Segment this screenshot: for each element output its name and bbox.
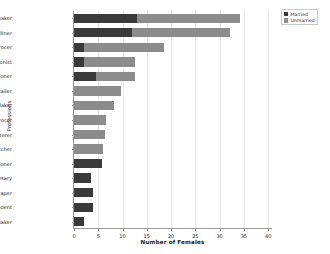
bar-segment-unmarried <box>74 101 114 110</box>
y-tick-mark <box>72 91 74 92</box>
bar-row <box>74 144 103 153</box>
x-tick-mark <box>147 229 148 231</box>
bar-segment-married <box>74 14 137 23</box>
bar-segment-married <box>74 159 102 168</box>
gridline <box>195 11 196 228</box>
legend-label-married: Married <box>290 12 308 17</box>
bar-row <box>74 188 93 197</box>
x-tick-mark <box>268 229 269 231</box>
y-tick-label: Lady Superintendent <box>0 204 12 210</box>
x-tick-mark <box>195 229 196 231</box>
x-tick-mark <box>244 229 245 231</box>
bar-row <box>74 101 114 110</box>
gridline <box>220 11 221 228</box>
y-tick-mark <box>72 33 74 34</box>
bar-row <box>74 217 84 226</box>
y-tick-mark <box>72 222 74 223</box>
y-tick-label: Beer Retailer <box>0 88 12 94</box>
y-tick-label: Greengrocer <box>0 117 12 123</box>
bar-row <box>74 72 135 81</box>
y-tick-mark <box>72 178 74 179</box>
y-tick-label: Milliner <box>0 30 12 36</box>
legend-item-married: Married <box>284 12 315 17</box>
y-tick-mark <box>72 149 74 150</box>
bar-segment-married <box>74 217 84 226</box>
bar-row <box>74 57 135 66</box>
x-axis-title: Number of Females <box>73 239 272 245</box>
bar-segment-married <box>74 203 93 212</box>
bar-row <box>74 28 230 37</box>
legend-item-unmarried: Unmarried <box>284 18 315 23</box>
bar-segment-married <box>74 57 84 66</box>
y-tick-mark <box>72 18 74 19</box>
legend-label-unmarried: Unmarried <box>290 18 314 23</box>
y-tick-mark <box>72 76 74 77</box>
chart-figure: Professions 0510152025303540DressmakerMi… <box>0 0 330 254</box>
y-tick-mark <box>72 164 74 165</box>
y-tick-label: Confectioner <box>0 73 12 79</box>
y-tick-label: Tobacconist <box>0 59 12 65</box>
y-tick-mark <box>72 207 74 208</box>
y-tick-label: Linendraper <box>0 190 12 196</box>
bar-row <box>74 203 93 212</box>
y-tick-label: Dressmaker <box>0 15 12 21</box>
bar-row <box>74 130 105 139</box>
x-tick-mark <box>123 229 124 231</box>
y-tick-mark <box>72 105 74 106</box>
bar-segment-married <box>74 43 84 52</box>
bar-segment-unmarried <box>137 14 240 23</box>
x-tick-mark <box>220 229 221 231</box>
bar-segment-unmarried <box>96 72 135 81</box>
y-tick-mark <box>72 135 74 136</box>
bar-row <box>74 86 121 95</box>
gridline <box>244 11 245 228</box>
legend-swatch-unmarried-icon <box>284 18 288 22</box>
y-tick-mark <box>72 47 74 48</box>
bar-row <box>74 159 102 168</box>
y-tick-mark <box>72 62 74 63</box>
legend-swatch-married-icon <box>284 12 288 16</box>
bar-segment-married <box>74 173 91 182</box>
bar-segment-unmarried <box>74 86 121 95</box>
bar-segment-unmarried <box>74 130 105 139</box>
x-tick-mark <box>98 229 99 231</box>
bar-segment-unmarried <box>74 144 103 153</box>
bar-segment-unmarried <box>84 57 135 66</box>
y-tick-label: Butcher <box>0 146 12 152</box>
bar-row <box>74 115 106 124</box>
bar-row <box>74 43 164 52</box>
gridline <box>171 11 172 228</box>
y-tick-label: Secretary <box>0 175 12 181</box>
chart-legend: Married Unmarried <box>281 9 318 25</box>
bar-row <box>74 14 240 23</box>
y-tick-mark <box>72 120 74 121</box>
bar-segment-married <box>74 72 96 81</box>
bar-row <box>74 173 91 182</box>
y-tick-label: Fruiterer <box>0 132 12 138</box>
y-tick-mark <box>72 193 74 194</box>
bar-segment-married <box>74 188 93 197</box>
y-tick-label: Baker <box>0 102 12 108</box>
y-tick-label: Grocer <box>0 44 12 50</box>
bar-segment-unmarried <box>74 115 106 124</box>
x-tick-mark <box>74 229 75 231</box>
bar-segment-unmarried <box>84 43 165 52</box>
x-tick-mark <box>171 229 172 231</box>
plot-area: 0510152025303540DressmakerMillinerGrocer… <box>73 11 272 229</box>
bar-segment-unmarried <box>132 28 230 37</box>
y-tick-label: Staymaker <box>0 219 12 225</box>
bar-segment-married <box>74 28 132 37</box>
y-tick-label: Stationer <box>0 161 12 167</box>
gridline <box>268 11 269 228</box>
